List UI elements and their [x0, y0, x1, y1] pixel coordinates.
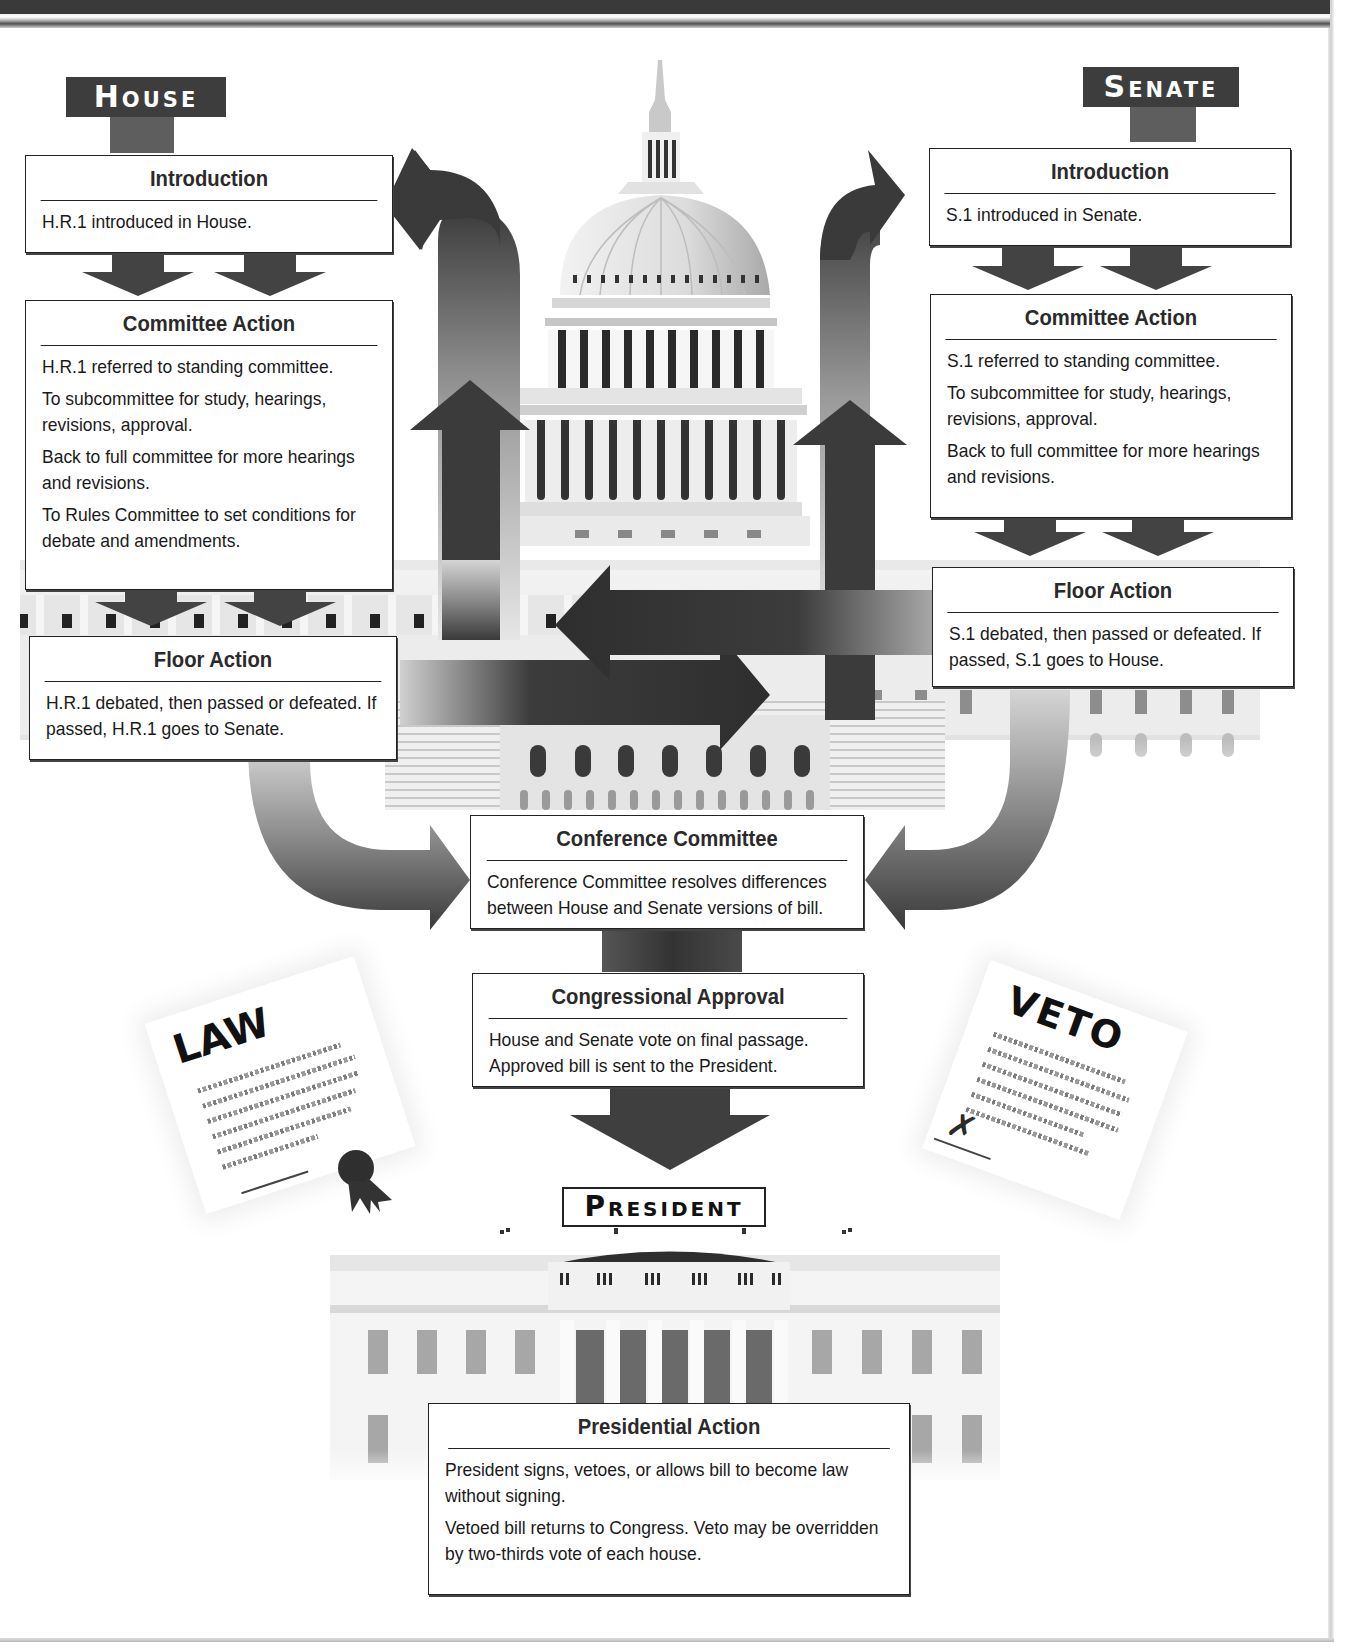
- box-body: H.R.1 debated, then passed or defeated. …: [30, 682, 396, 758]
- box-title: Committee Action: [41, 301, 378, 346]
- box-title: Introduction: [944, 149, 1275, 194]
- senate-introduction-box: Introduction S.1 introduced in Senate.: [929, 148, 1291, 246]
- box-body: H.R.1 referred to standing committee. To…: [26, 346, 392, 570]
- house-introduction-box: Introduction H.R.1 introduced in House.: [25, 155, 393, 253]
- senate-label-text: Senate: [1104, 69, 1219, 104]
- box-line: House and Senate vote on final passage. …: [489, 1027, 847, 1079]
- box-title: Congressional Approval: [489, 974, 848, 1019]
- box-line: To Rules Committee to set conditions for…: [42, 502, 376, 554]
- box-line: Back to full committee for more hearings…: [947, 438, 1275, 490]
- conference-committee-box: Conference Committee Conference Committe…: [470, 815, 864, 929]
- box-line: H.R.1 introduced in House.: [42, 209, 376, 235]
- box-title: Floor Action: [45, 637, 382, 682]
- congressional-approval-box: Congressional Approval House and Senate …: [472, 973, 864, 1087]
- box-body: Conference Committee resolves difference…: [471, 861, 863, 937]
- house-committee-action-box: Committee Action H.R.1 referred to stand…: [25, 300, 393, 590]
- house-label: House: [66, 77, 226, 117]
- box-title: Committee Action: [945, 295, 1276, 340]
- box-body: President signs, vetoes, or allows bill …: [429, 1449, 909, 1583]
- box-body: House and Senate vote on final passage. …: [473, 1019, 863, 1095]
- box-line: To subcommittee for study, hearings, rev…: [947, 380, 1275, 432]
- box-line: President signs, vetoes, or allows bill …: [445, 1457, 892, 1509]
- box-body: H.R.1 introduced in House.: [26, 201, 392, 251]
- seal-ribbon-icon: [338, 1150, 374, 1186]
- law-text-line: [222, 1134, 319, 1170]
- box-line: S.1 referred to standing committee.: [947, 348, 1275, 374]
- presidential-action-box: Presidential Action President signs, vet…: [428, 1403, 910, 1595]
- box-title: Floor Action: [947, 568, 1278, 613]
- box-line: S.1 introduced in Senate.: [946, 202, 1274, 228]
- box-line: Vetoed bill returns to Congress. Veto ma…: [445, 1515, 892, 1567]
- box-title: Introduction: [41, 156, 378, 201]
- senate-committee-action-box: Committee Action S.1 referred to standin…: [930, 294, 1292, 518]
- house-floor-action-box: Floor Action H.R.1 debated, then passed …: [29, 636, 397, 760]
- president-label: President: [562, 1187, 766, 1227]
- box-line: S.1 debated, then passed or defeated. If…: [949, 621, 1277, 673]
- president-label-text: President: [584, 1190, 743, 1223]
- box-line: Back to full committee for more hearings…: [42, 444, 376, 496]
- box-body: S.1 introduced in Senate.: [930, 194, 1290, 244]
- senate-label: Senate: [1083, 67, 1239, 107]
- box-line: Conference Committee resolves difference…: [487, 869, 847, 921]
- box-body: S.1 referred to standing committee. To s…: [931, 340, 1291, 506]
- box-title: Conference Committee: [487, 816, 848, 861]
- box-line: To subcommittee for study, hearings, rev…: [42, 386, 376, 438]
- box-title: Presidential Action: [448, 1404, 890, 1449]
- house-label-text: House: [94, 79, 198, 114]
- senate-floor-action-box: Floor Action S.1 debated, then passed or…: [932, 567, 1294, 687]
- box-body: S.1 debated, then passed or defeated. If…: [933, 613, 1293, 689]
- box-line: H.R.1 referred to standing committee.: [42, 354, 376, 380]
- box-line: H.R.1 debated, then passed or defeated. …: [46, 690, 380, 742]
